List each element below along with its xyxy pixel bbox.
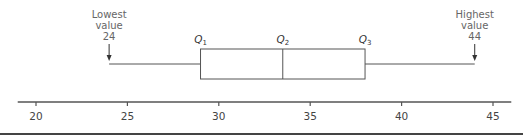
quartile-label: Q1 — [194, 33, 207, 47]
x-axis-tick-label: 35 — [304, 110, 317, 122]
annotation-label: Lowest — [92, 9, 127, 20]
x-axis-tick-label: 20 — [29, 110, 42, 122]
annotation-label: 24 — [103, 31, 116, 42]
quartile-label: Q2 — [276, 33, 289, 47]
arrow-head-icon — [107, 55, 112, 61]
annotation-label: Highest — [456, 9, 494, 20]
arrow-head-icon — [472, 55, 477, 61]
annotation-label: 44 — [468, 31, 481, 42]
x-axis-tick-label: 45 — [486, 110, 499, 122]
x-axis-tick-label: 25 — [121, 110, 134, 122]
quartile-label: Q3 — [359, 33, 372, 47]
annotation-label: value — [461, 20, 488, 31]
box-plot-chart: 202530354045Lowestvalue24Highestvalue44Q… — [0, 0, 523, 135]
x-axis-tick-label: 40 — [395, 110, 408, 122]
x-axis-tick-label: 30 — [212, 110, 225, 122]
annotation-label: value — [95, 20, 122, 31]
bottom-rule-divider — [0, 133, 523, 135]
